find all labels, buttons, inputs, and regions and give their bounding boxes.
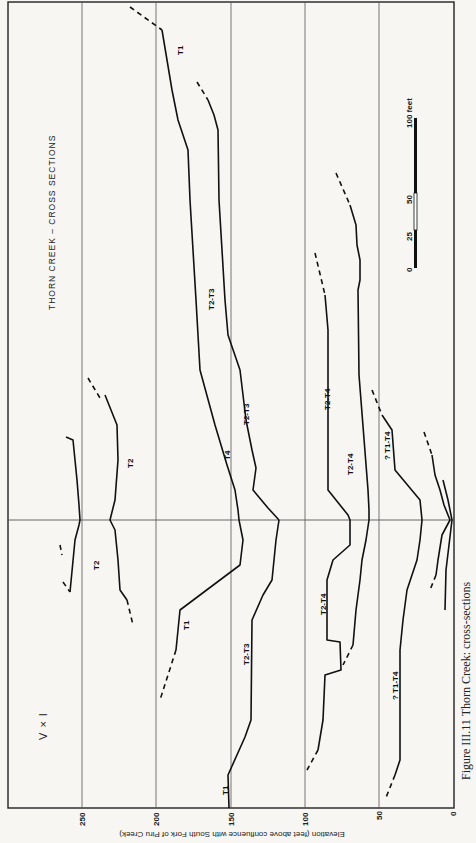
scale-label-0: 0: [405, 267, 414, 272]
terrace-label: T2: [126, 458, 135, 468]
terrace-label: T2: [92, 560, 101, 570]
terrace-labels: T1 T2 T2 T2-T3 T2-T3 T4 T1 T2-T3 T1 T2-T…: [92, 45, 400, 795]
figure-caption: Figure III.11 Thorn Creek: cross-section…: [459, 581, 473, 780]
tick-200: 200: [152, 812, 161, 826]
terrace-label: T1: [221, 785, 230, 795]
terrace-label: T2-T4: [323, 388, 332, 410]
section-4-profile: [372, 390, 422, 800]
tick-50: 50: [375, 811, 384, 820]
figure-title: THORN CREEK – CROSS SECTIONS: [47, 135, 57, 310]
scale-label-25: 25: [405, 232, 414, 241]
gridlines: [82, 2, 379, 808]
axis-label: Elevation (feet above confluence with So…: [119, 830, 345, 839]
terrace-label: T1: [176, 45, 185, 55]
tick-250: 250: [78, 812, 87, 826]
section-3-profile: [307, 173, 369, 770]
terrace-label: T1: [182, 620, 191, 630]
terrace-label: T2-T4: [319, 593, 328, 615]
tick-100: 100: [301, 812, 310, 826]
terrace-label: ? T1-T4: [383, 431, 392, 460]
terrace-label: T2-T3: [207, 288, 216, 310]
scale-bar: 0 25 50 100 feet: [405, 98, 417, 272]
section-5-profile: [424, 432, 452, 610]
terrace-label: T2-T3: [242, 403, 251, 425]
scale-label-100: 100 feet: [405, 98, 414, 128]
terrace-label: ? T1-T4: [391, 671, 400, 700]
cross-section-figure: T1 T2 T2 T2-T3 T2-T3 T4 T1 T2-T3 T1 T2-T…: [0, 0, 476, 843]
vertical-exaggeration: V × I: [37, 712, 49, 740]
section-2-profile: [130, 7, 279, 808]
terrace-label: T2-T4: [346, 453, 355, 475]
section-1-profile: [60, 378, 133, 625]
tick-150: 150: [227, 812, 236, 826]
elevation-axis: 250 200 150 100 50 0 Elevation (feet abo…: [78, 811, 458, 839]
terrace-label: T2-T3: [242, 643, 251, 665]
scale-label-50: 50: [405, 195, 414, 204]
tick-0: 0: [449, 811, 458, 816]
terrace-label: T4: [223, 450, 232, 460]
